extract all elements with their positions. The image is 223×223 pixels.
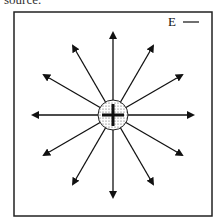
field-diagram: E	[0, 0, 223, 223]
legend-label: E	[168, 14, 176, 29]
